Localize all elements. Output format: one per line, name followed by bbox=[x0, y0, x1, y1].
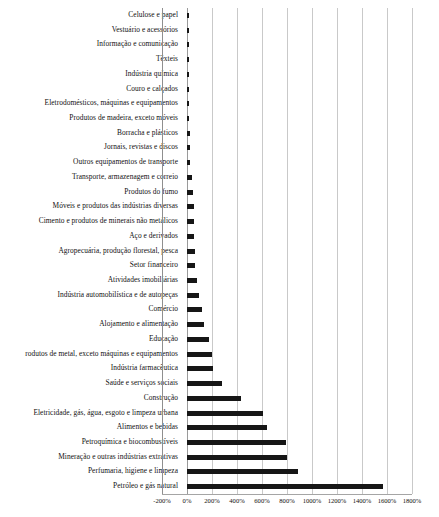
gridline-1400 bbox=[362, 8, 363, 494]
x-tick-label: 1800% bbox=[403, 496, 422, 505]
category-label: Eletricidade, gás, água, esgoto e limpez… bbox=[0, 409, 178, 417]
bar bbox=[187, 204, 194, 209]
category-label: Outros equipamentos de transporte bbox=[0, 158, 178, 166]
x-tick-label: 1600% bbox=[378, 496, 397, 505]
category-label: Petroquímica e biocombustíveis bbox=[0, 438, 178, 446]
x-tick-label: 200% bbox=[204, 496, 219, 505]
bar bbox=[187, 293, 199, 298]
bar bbox=[187, 175, 192, 180]
category-label: Móveis e produtos das indústrias diversa… bbox=[0, 202, 178, 210]
category-label: Couro e calçados bbox=[0, 85, 178, 93]
x-tick-label: 1400% bbox=[353, 496, 372, 505]
category-label: Indústria farmacêutica bbox=[0, 364, 178, 372]
x-axis-line bbox=[162, 494, 412, 495]
category-label: Mineração e outras indústrias extrativas bbox=[0, 453, 178, 461]
category-label: Celulose e papel bbox=[0, 11, 178, 19]
bar-chart: Celulose e papelVestuário e acessóriosIn… bbox=[0, 0, 439, 517]
bar bbox=[187, 28, 189, 33]
plot-area bbox=[162, 8, 412, 494]
bar bbox=[187, 322, 204, 327]
bar bbox=[187, 396, 241, 401]
category-label: Educação bbox=[0, 335, 178, 343]
x-axis-tick-labels: -200%0%200%400%600%800%1000%1200%1400%16… bbox=[162, 496, 412, 512]
gridline-1600 bbox=[387, 8, 388, 494]
bar bbox=[187, 278, 197, 283]
gridline-1000 bbox=[312, 8, 313, 494]
bar bbox=[187, 411, 263, 416]
plot-inner bbox=[162, 8, 412, 494]
category-axis-labels: Celulose e papelVestuário e acessóriosIn… bbox=[0, 8, 182, 494]
category-label: Atividades imobiliárias bbox=[0, 276, 178, 284]
bar bbox=[187, 425, 267, 430]
gridline-200 bbox=[212, 8, 213, 494]
category-label: Transporte, armazenagem e correio bbox=[0, 173, 178, 181]
bar bbox=[187, 249, 195, 254]
category-label: Produtos de madeira, exceto móveis bbox=[0, 114, 178, 122]
bar bbox=[187, 352, 212, 357]
x-tick-label: 1200% bbox=[328, 496, 347, 505]
category-label: Agropecuária, produção florestal, pesca bbox=[0, 247, 178, 255]
category-label: Comércio bbox=[0, 305, 178, 313]
bar bbox=[187, 337, 209, 342]
gridline-1200 bbox=[337, 8, 338, 494]
x-tick-label: 1000% bbox=[303, 496, 322, 505]
bar bbox=[187, 131, 190, 136]
category-label: rodutos de metal, exceto máquinas e equi… bbox=[0, 350, 178, 358]
bar bbox=[187, 455, 287, 460]
bar bbox=[187, 219, 194, 224]
bar bbox=[187, 234, 194, 239]
category-label: Cimento e produtos de minerais não metál… bbox=[0, 217, 178, 225]
category-label: Petróleo e gás natural bbox=[0, 482, 178, 490]
bar bbox=[187, 484, 383, 489]
category-label: Indústria química bbox=[0, 70, 178, 78]
bar bbox=[187, 72, 189, 77]
bar bbox=[187, 145, 190, 150]
category-label: Produtos do fumo bbox=[0, 188, 178, 196]
bar bbox=[187, 160, 190, 165]
category-label: Saúde e serviços sociais bbox=[0, 379, 178, 387]
category-label: Alojamento e alimentação bbox=[0, 320, 178, 328]
bar bbox=[187, 263, 195, 268]
x-tick-label: 800% bbox=[279, 496, 294, 505]
gridline-400 bbox=[237, 8, 238, 494]
x-tick-label: 0% bbox=[183, 496, 192, 505]
bar bbox=[187, 87, 189, 92]
bar bbox=[187, 116, 189, 121]
bar bbox=[187, 381, 222, 386]
category-label: Indústria automobilística e de autopeças bbox=[0, 291, 178, 299]
category-label: Informação e comunicação bbox=[0, 40, 178, 48]
gridline--200 bbox=[162, 8, 163, 494]
bar bbox=[187, 190, 193, 195]
gridline-800 bbox=[287, 8, 288, 494]
category-label: Borracha e plásticos bbox=[0, 129, 178, 137]
category-label: Setor financeiro bbox=[0, 261, 178, 269]
bar bbox=[187, 42, 189, 47]
category-label: Têxteis bbox=[0, 55, 178, 63]
bar bbox=[187, 307, 202, 312]
bar bbox=[187, 440, 286, 445]
gridline-1800 bbox=[412, 8, 413, 494]
bar bbox=[187, 366, 213, 371]
bar bbox=[187, 469, 298, 474]
x-tick-label: 400% bbox=[229, 496, 244, 505]
bar bbox=[187, 57, 189, 62]
gridline-600 bbox=[262, 8, 263, 494]
bar bbox=[187, 13, 189, 18]
category-label: Construção bbox=[0, 394, 178, 402]
x-tick-label: -200% bbox=[153, 496, 171, 505]
category-label: Eletrodomésticos, máquinas e equipamento… bbox=[0, 99, 178, 107]
bar bbox=[187, 101, 189, 106]
category-label: Alimentos e bebidas bbox=[0, 423, 178, 431]
category-label: Aço e derivados bbox=[0, 232, 178, 240]
x-tick-label: 600% bbox=[254, 496, 269, 505]
category-label: Jornais, revistas e discos bbox=[0, 143, 178, 151]
category-label: Perfumaria, higiene e limpeza bbox=[0, 467, 178, 475]
category-label: Vestuário e acessórios bbox=[0, 26, 178, 34]
